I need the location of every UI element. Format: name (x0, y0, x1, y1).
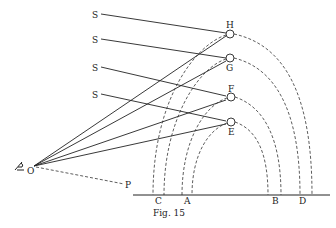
arc-h-right (234, 34, 312, 195)
sun-ray-1 (101, 14, 226, 33)
drop-g (226, 54, 234, 62)
sight-line-f (34, 100, 226, 166)
line-o-p (36, 167, 124, 184)
label-s4: S (92, 90, 98, 100)
eye-icon (15, 162, 24, 170)
label-e: E (228, 127, 235, 137)
figure-caption: Fig. 15 (153, 208, 185, 218)
label-o: O (27, 166, 34, 176)
label-g: G (226, 63, 233, 73)
sight-line-e (34, 124, 226, 166)
label-p: P (125, 180, 131, 190)
arc-e-right (235, 122, 268, 195)
arc-g-left (164, 59, 226, 195)
sight-line-g (34, 61, 226, 166)
label-c: C (155, 196, 162, 206)
label-f: F (228, 84, 234, 94)
label-a: A (183, 196, 191, 206)
rainbow-diagram: S S S S H G F E O P C A B D Fig. 15 (0, 0, 336, 228)
arc-f-right (235, 97, 281, 195)
label-s1: S (92, 10, 98, 20)
label-d: D (299, 196, 306, 206)
drop-h (226, 30, 234, 38)
label-b: B (272, 196, 279, 206)
label-h: H (226, 20, 234, 30)
label-s2: S (92, 35, 98, 45)
drop-e (227, 118, 235, 126)
arc-e-left (192, 123, 227, 195)
drop-f (227, 93, 235, 101)
label-s3: S (92, 63, 98, 73)
arc-h-left (153, 35, 226, 195)
